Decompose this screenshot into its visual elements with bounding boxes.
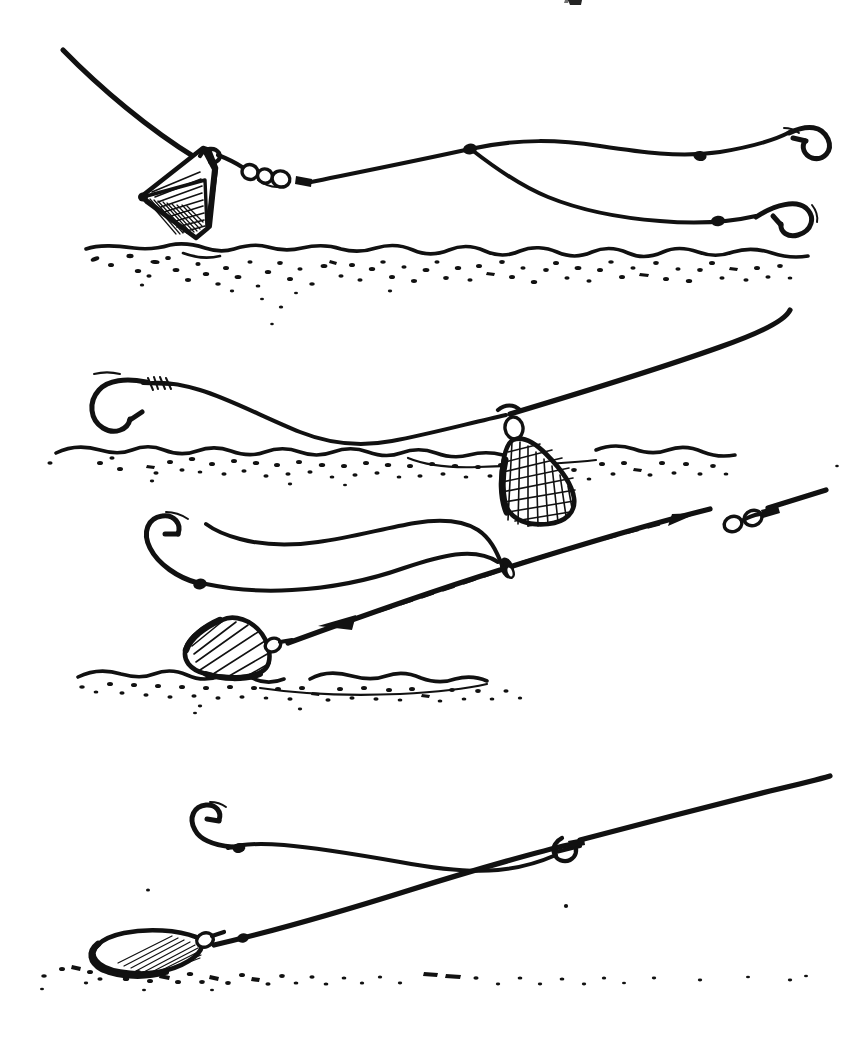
- fishing-rig-illustration: [0, 0, 858, 1051]
- panel-1-lead-corner-node: [138, 192, 148, 201]
- illustration-page: [0, 0, 858, 1051]
- panel-4-ink-speck: [146, 888, 150, 891]
